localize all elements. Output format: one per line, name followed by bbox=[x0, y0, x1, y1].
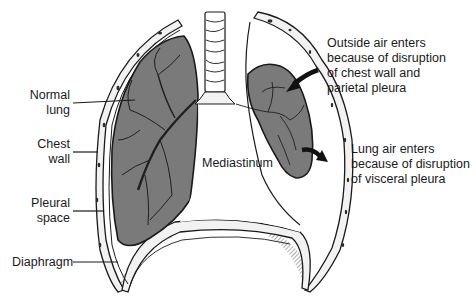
label-normal-lung: Normal lung bbox=[26, 88, 70, 118]
label-outside-air: Outside air enters because of disruption… bbox=[327, 36, 446, 96]
label-diaphragm: Diaphragm bbox=[12, 255, 73, 270]
label-chest-wall: Chest wall bbox=[26, 137, 70, 167]
trachea bbox=[195, 12, 235, 104]
label-pleural-space: Pleural space bbox=[16, 196, 70, 226]
label-mediastinum: Mediastinum bbox=[202, 156, 273, 171]
label-lung-air: Lung air enters because of disruption of… bbox=[351, 142, 470, 187]
